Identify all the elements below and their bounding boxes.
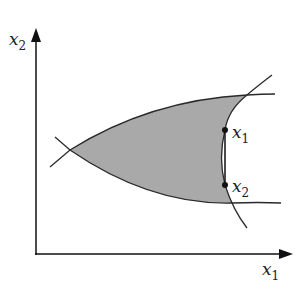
y-axis-arrow-icon [31, 28, 41, 42]
point-x2-label: x2 [232, 176, 249, 200]
point-x2 [222, 182, 228, 188]
point-x1 [222, 127, 228, 133]
x-axis-label: x1 [262, 259, 279, 283]
x-axis-arrow-icon [279, 249, 293, 259]
point-x1-label: x1 [232, 122, 249, 146]
feasible-region [70, 95, 247, 203]
y-axis-label: x2 [9, 29, 26, 53]
nonconvex-region-diagram: x2 x1 x1 x2 [0, 0, 303, 293]
